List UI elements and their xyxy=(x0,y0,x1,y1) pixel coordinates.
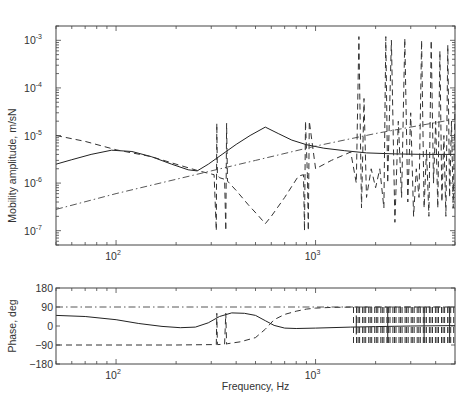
mobility-chart: 10210310-310-410-510-610-7 Mobility ampl… xyxy=(0,0,470,407)
amplitude-y-axis-label: Mobility amplitude, m/sN xyxy=(6,108,18,222)
x-tick-label: 102 xyxy=(105,249,121,262)
phase-series-solid xyxy=(56,313,455,329)
y-tick-label: 0 xyxy=(47,320,53,332)
phase-series-group xyxy=(56,307,455,345)
amplitude-series-solid xyxy=(56,127,455,171)
y-tick-label: 90 xyxy=(41,301,53,313)
y-tick-label: −180 xyxy=(29,358,53,370)
y-tick-label: 10-4 xyxy=(24,81,42,94)
y-tick-label: −90 xyxy=(35,339,53,351)
x-tick-label: 103 xyxy=(305,368,321,381)
phase-ticks: 102103180900−90−180 xyxy=(29,282,455,381)
y-tick-label: 180 xyxy=(35,282,53,294)
amplitude-panel: 10210310-310-410-510-610-7 Mobility ampl… xyxy=(6,26,455,262)
y-tick-label: 10-3 xyxy=(24,33,42,46)
phase-panel: 102103180900−90−180 Phase, deg Frequency… xyxy=(6,282,455,392)
amplitude-series-group xyxy=(56,37,455,231)
frequency-x-axis-label: Frequency, Hz xyxy=(222,380,290,392)
y-tick-label: 10-6 xyxy=(24,176,42,189)
x-tick-label: 103 xyxy=(305,249,321,262)
amplitude-ticks: 10210310-310-410-510-610-7 xyxy=(24,26,455,262)
y-tick-label: 10-7 xyxy=(24,224,42,237)
x-tick-label: 102 xyxy=(105,368,121,381)
phase-y-axis-label: Phase, deg xyxy=(6,299,18,352)
amplitude-series-dashed xyxy=(56,37,455,231)
y-tick-label: 10-5 xyxy=(24,129,42,142)
